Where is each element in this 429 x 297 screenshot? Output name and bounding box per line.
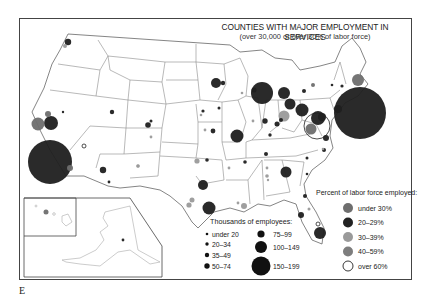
- size-legend-swatch: [205, 253, 209, 257]
- county-marker-pittsburgh: [318, 113, 326, 121]
- county-marker-san-antonio: [186, 202, 191, 207]
- county-marker-austin: [190, 198, 195, 203]
- percent-legend-title: Percent of labor force employed:: [316, 189, 417, 197]
- county-marker-atlanta: [281, 167, 292, 178]
- size-legend-label: 50–74: [212, 263, 231, 270]
- county-marker-boston: [352, 74, 364, 86]
- county-marker-las-vegas: [82, 144, 86, 148]
- county-marker-fort-lauderdale: [316, 222, 320, 226]
- percent-legend-swatch: [343, 232, 353, 242]
- percent-legend-label: 20–29%: [358, 219, 384, 226]
- county-marker-tampa: [298, 212, 304, 218]
- county-marker-salt-lake: [110, 110, 114, 114]
- county-marker-springfield-il: [252, 120, 255, 123]
- county-marker-el-paso: [137, 165, 140, 168]
- county-marker-honolulu: [44, 210, 49, 215]
- size-legend-label: 20–34: [212, 241, 231, 248]
- percent-legend-label: under 30%: [358, 205, 392, 212]
- county-marker-louisville: [268, 133, 271, 136]
- county-marker-dallas: [198, 180, 208, 190]
- county-marker-new-orleans: [241, 203, 247, 209]
- county-marker-philadelphia: [334, 105, 342, 113]
- county-marker-tacoma: [63, 44, 67, 48]
- county-marker-jacksonville: [303, 194, 307, 198]
- county-marker-cincinnati: [275, 122, 280, 127]
- county-marker-birmingham: [266, 167, 269, 170]
- size-legend-label: 100–149: [273, 244, 300, 251]
- county-marker-toledo: [285, 99, 296, 110]
- percent-legend-swatch: [343, 218, 353, 228]
- county-marker-boulder: [150, 120, 153, 123]
- size-legend-swatch: [205, 242, 208, 245]
- county-marker-wichita: [204, 129, 207, 132]
- county-marker-arlington: [306, 124, 317, 135]
- county-marker-houston: [203, 202, 216, 215]
- county-marker-indianapolis: [262, 118, 267, 123]
- county-marker-kansas-city: [211, 129, 216, 134]
- percent-legend-swatch: [343, 261, 353, 271]
- size-legend-swatch: [204, 263, 209, 268]
- county-marker-cleveland: [296, 104, 309, 117]
- size-legend-title: Thousands of employees:: [210, 217, 292, 226]
- county-marker-minneapolis: [211, 78, 221, 88]
- county-marker-oakland: [44, 116, 58, 130]
- county-marker-la: [28, 140, 72, 184]
- figure-label: E: [19, 285, 25, 296]
- county-marker-denver: [145, 122, 151, 128]
- county-marker-tulsa: [205, 158, 209, 162]
- percent-legend-label: 40–59%: [358, 248, 384, 255]
- percent-legend-swatch: [343, 247, 353, 257]
- county-marker-little-rock: [228, 167, 231, 170]
- county-marker-albany: [331, 84, 334, 87]
- county-marker-oklahoma-city: [194, 158, 199, 163]
- size-legend-swatch: [206, 233, 209, 236]
- county-marker-tucson: [108, 181, 111, 184]
- size-legend-swatch: [255, 241, 267, 253]
- county-marker-dayton: [279, 118, 283, 122]
- county-marker-anchorage: [122, 239, 125, 242]
- county-marker-st-paul: [221, 81, 225, 85]
- size-legend-label: 35–49: [212, 252, 231, 259]
- county-marker-new-york: [334, 87, 386, 139]
- county-marker-rochester: [311, 83, 315, 87]
- county-marker-omaha: [201, 109, 204, 112]
- size-legend-label: 150–199: [273, 263, 300, 270]
- county-marker-montgomery: [267, 179, 269, 181]
- county-marker-charlotte: [306, 157, 309, 160]
- county-marker-baton-rouge: [237, 202, 240, 205]
- county-marker-memphis: [243, 160, 247, 164]
- county-marker-norfolk: [322, 148, 325, 151]
- county-marker-colorado-springs: [150, 136, 153, 139]
- county-marker-lincoln: [200, 114, 203, 117]
- county-marker-st-louis: [231, 130, 244, 143]
- size-legend-swatch: [252, 257, 271, 276]
- county-marker-miami: [314, 227, 326, 239]
- county-marker-milwaukee: [252, 88, 257, 93]
- county-marker-atlanta-2: [306, 173, 309, 176]
- county-marker-orlando: [308, 208, 311, 211]
- percent-legend: Percent of labor force employed:under 30…: [316, 189, 417, 271]
- county-marker-nashville: [264, 152, 268, 156]
- county-marker-detroit: [278, 87, 290, 99]
- us-map: Thousands of employees:under 2020–3435–4…: [0, 0, 429, 297]
- county-marker-hartford: [340, 84, 343, 87]
- size-legend: Thousands of employees:under 2020–3435–4…: [204, 217, 299, 276]
- size-legend-label: under 20: [212, 231, 239, 238]
- county-marker-huntsville: [265, 174, 269, 178]
- data-points: [28, 39, 386, 242]
- percent-legend-label: over 60%: [358, 263, 388, 270]
- county-marker-des-moines: [218, 107, 221, 110]
- map-figure: Thousands of employees:under 2020–3435–4…: [0, 0, 429, 297]
- county-marker-chicago: [251, 82, 273, 104]
- county-marker-san-diego: [67, 165, 73, 171]
- percent-legend-label: 30–39%: [358, 234, 384, 241]
- county-marker-richmond: [323, 135, 329, 141]
- county-marker-reno: [62, 111, 64, 113]
- county-marker-sacramento: [45, 111, 51, 117]
- county-marker-sf: [32, 118, 45, 131]
- alaska-outline: [62, 206, 160, 266]
- county-marker-buffalo: [302, 89, 306, 93]
- size-legend-label: 75–99: [273, 231, 292, 238]
- county-marker-phoenix: [100, 167, 106, 173]
- size-legend-swatch: [257, 230, 264, 237]
